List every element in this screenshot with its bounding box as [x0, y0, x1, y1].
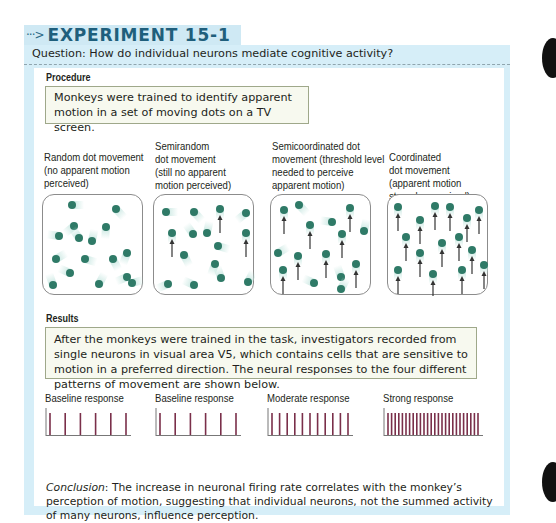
response-label: Baseline response	[45, 393, 124, 404]
condition-label-line: (still no apparent	[155, 166, 231, 179]
experiment-header: ···> EXPERIMENT 15-1	[24, 25, 241, 45]
experiment-frame: Question: How do individual neurons medi…	[24, 45, 510, 515]
response-label: Baseline response	[155, 393, 234, 404]
condition-label-line: (no apparent motion	[44, 164, 144, 177]
question-text: Question: How do individual neurons medi…	[24, 45, 510, 65]
procedure-label: Procedure	[46, 72, 91, 83]
spike-raster	[45, 408, 131, 440]
condition-label: Semirandomdot movement(still no apparent…	[155, 140, 231, 192]
response-label: Strong response	[383, 393, 453, 404]
experiment-body: Procedure Monkeys were trained to identi…	[34, 68, 504, 506]
response-label: Moderate response	[267, 393, 350, 404]
condition-label-line: Coordinated	[389, 151, 470, 164]
condition-label-line: needed to perceive	[272, 166, 384, 179]
dot-display-panel	[42, 194, 143, 295]
page-edge-mark-bottom	[542, 462, 556, 502]
spike-raster	[267, 408, 353, 440]
condition-label-line: dot movement	[155, 153, 231, 166]
experiment-title: EXPERIMENT 15-1	[48, 25, 231, 45]
conclusion-lead: Conclusion	[46, 481, 105, 494]
dotted-arrow-icon: ···>	[26, 28, 44, 42]
condition-label-line: movement (threshold level	[272, 153, 384, 166]
condition-label: Random dot movement(no apparent motionpe…	[44, 151, 144, 190]
spike-raster	[155, 408, 241, 440]
procedure-text: Monkeys were trained to identify apparen…	[45, 86, 309, 124]
conclusion-text: Conclusion: The increase in neuronal fir…	[46, 481, 496, 523]
condition-label-line: perceived)	[44, 177, 144, 190]
condition-label-line: (apparent motion	[389, 177, 470, 190]
condition-label-line: motion perceived)	[155, 179, 231, 192]
condition-label-line: dot movement	[389, 164, 470, 177]
spike-raster	[383, 408, 483, 440]
conclusion-body: : The increase in neuronal firing rate c…	[46, 481, 493, 522]
results-text: After the monkeys were trained in the ta…	[45, 327, 477, 379]
condition-label: Semicoordinated dotmovement (threshold l…	[272, 140, 384, 192]
dot-display-panel	[153, 194, 254, 295]
condition-label-line: apparent motion)	[272, 179, 384, 192]
results-label: Results	[46, 313, 79, 324]
condition-label-line: Random dot movement	[44, 151, 144, 164]
condition-label-line: Semirandom	[155, 140, 231, 153]
condition-label-line: Semicoordinated dot	[272, 140, 384, 153]
dot-display-panel	[387, 194, 488, 295]
page-edge-mark-top	[542, 38, 556, 78]
dot-display-panel	[270, 194, 371, 295]
